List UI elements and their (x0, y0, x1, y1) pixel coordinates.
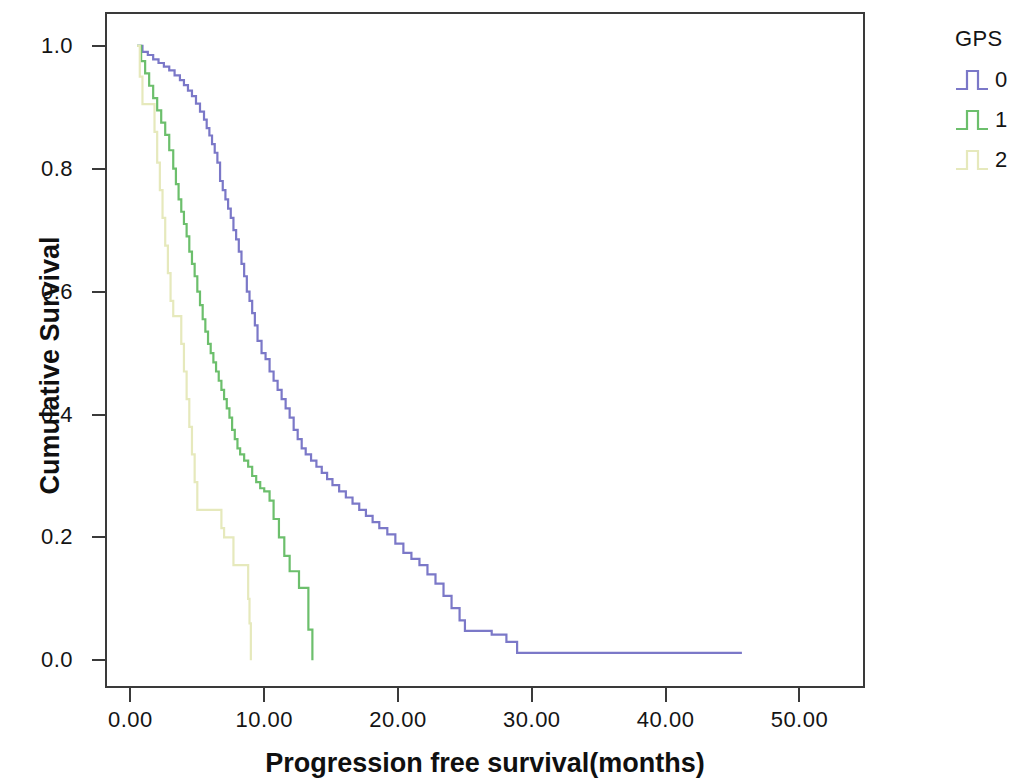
legend: GPS 012 (955, 26, 1028, 180)
y-tick-label: 0.2 (41, 524, 73, 550)
x-tick-label: 20.00 (369, 707, 427, 733)
x-tick-label: 40.00 (637, 707, 695, 733)
y-tick-mark (92, 45, 105, 47)
y-tick-mark (92, 536, 105, 538)
survival-curves (105, 12, 865, 688)
y-tick-mark (92, 291, 105, 293)
legend-swatch-icon (955, 145, 989, 175)
legend-swatch-icon (955, 65, 989, 95)
legend-swatch-icon (955, 105, 989, 135)
legend-label: 0 (995, 69, 1007, 91)
legend-title: GPS (955, 26, 1028, 52)
x-tick-mark (263, 688, 265, 702)
y-axis-ticks: 0.00.20.40.60.81.0 (0, 0, 73, 783)
x-tick-mark (798, 688, 800, 702)
y-tick-mark (92, 168, 105, 170)
legend-label: 2 (995, 149, 1007, 171)
x-tick-mark (129, 688, 131, 702)
survival-curve-0 (137, 46, 742, 653)
y-tick-mark (92, 414, 105, 416)
x-tick-label: 0.00 (108, 707, 153, 733)
survival-curve-2 (137, 46, 251, 661)
survival-curve-1 (137, 46, 312, 661)
kaplan-meier-figure: Cumulative Survival 0.00.20.40.60.81.0 0… (0, 0, 1028, 783)
x-tick-mark (397, 688, 399, 702)
x-tick-mark (531, 688, 533, 702)
legend-label: 1 (995, 109, 1007, 131)
x-axis-title: Progression free survival(months) (105, 748, 865, 779)
y-tick-label: 0.8 (41, 156, 73, 182)
y-tick-label: 0.6 (41, 279, 73, 305)
legend-item-2[interactable]: 2 (955, 140, 1028, 180)
y-tick-mark (92, 659, 105, 661)
x-tick-label: 30.00 (503, 707, 561, 733)
y-tick-label: 0.4 (41, 402, 73, 428)
legend-item-0[interactable]: 0 (955, 60, 1028, 100)
x-tick-label: 50.00 (771, 707, 829, 733)
x-tick-label: 10.00 (235, 707, 293, 733)
y-tick-label: 1.0 (41, 33, 73, 59)
y-tick-label: 0.0 (41, 647, 73, 673)
x-tick-mark (665, 688, 667, 702)
legend-item-1[interactable]: 1 (955, 100, 1028, 140)
